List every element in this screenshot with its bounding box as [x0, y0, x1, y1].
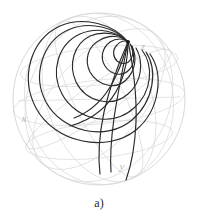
axis-label-x: x	[21, 112, 27, 124]
sphere-phase-portrait: z x y	[0, 0, 198, 198]
figure-container: z x y a)	[0, 0, 198, 217]
axis-label-z: z	[140, 40, 146, 52]
figure-caption: a)	[0, 196, 198, 211]
axis-label-y: y	[119, 160, 125, 172]
focus-point	[126, 40, 130, 44]
